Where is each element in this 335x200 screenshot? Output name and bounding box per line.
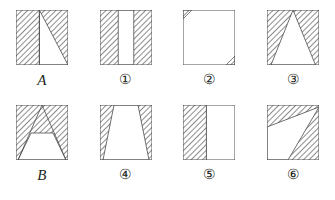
figure-cell-6: ⑥ — [251, 99, 335, 194]
figure-cell-3: ③ — [251, 4, 335, 99]
figure-cell-b: B — [0, 99, 84, 194]
label-b: B — [37, 167, 46, 183]
label-6: ⑥ — [287, 167, 300, 183]
label-5: ⑤ — [203, 167, 216, 183]
figure-cell-5: ⑤ — [168, 99, 252, 194]
shape-b — [16, 105, 68, 160]
hatch-band-5 — [183, 105, 206, 160]
figure-container: A ① ② — [0, 0, 335, 200]
shape-a — [16, 10, 68, 65]
label-3: ③ — [287, 72, 300, 88]
label-2: ② — [203, 72, 216, 88]
label-a: A — [37, 72, 46, 88]
figure-row-1: A ① ② — [0, 4, 335, 99]
shape-6 — [267, 105, 319, 160]
figure-cell-a: A — [0, 4, 84, 99]
label-4: ④ — [119, 167, 132, 183]
figure-cell-1: ① — [84, 4, 168, 99]
shape-1 — [100, 10, 152, 65]
shape-5 — [183, 105, 235, 160]
white-fill-2 — [183, 10, 235, 65]
white-band-1 — [118, 10, 134, 65]
figure-cell-4: ④ — [84, 99, 168, 194]
shape-2 — [183, 10, 235, 65]
label-1: ① — [119, 72, 132, 88]
shape-4 — [100, 105, 152, 160]
shape-3 — [267, 10, 319, 65]
figure-row-2: B ④ ⑤ — [0, 99, 335, 194]
figure-cell-2: ② — [168, 4, 252, 99]
